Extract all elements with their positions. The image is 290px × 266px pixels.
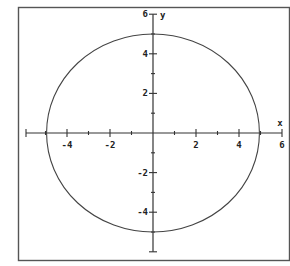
x-tick-label: -4 bbox=[62, 140, 73, 150]
y-tick-label: 2 bbox=[143, 88, 148, 98]
circle-plot: -4-2246642-2-4 x y bbox=[0, 0, 290, 266]
x-tick-label: 2 bbox=[193, 140, 198, 150]
axes bbox=[26, 14, 282, 252]
y-axis-label: y bbox=[160, 10, 166, 20]
x-tick-label: -2 bbox=[105, 140, 116, 150]
tick-labels: -4-2246642-2-4 bbox=[62, 9, 285, 217]
y-tick-label: 4 bbox=[143, 49, 149, 59]
x-axis-label: x bbox=[277, 118, 283, 128]
x-tick-label: 6 bbox=[279, 140, 284, 150]
y-tick-label: -2 bbox=[137, 168, 148, 178]
plot-frame bbox=[19, 8, 290, 261]
y-tick-label: -4 bbox=[137, 207, 148, 217]
y-tick-label: 6 bbox=[143, 9, 148, 19]
x-tick-label: 4 bbox=[236, 140, 242, 150]
